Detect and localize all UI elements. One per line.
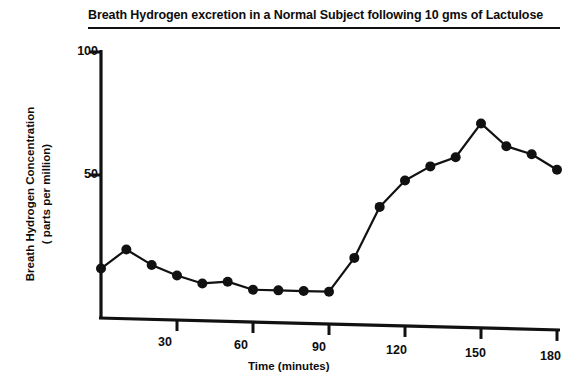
data-point: [400, 176, 410, 186]
data-point: [349, 253, 359, 263]
data-point: [121, 245, 131, 255]
y-axis-ticks: [90, 52, 101, 175]
data-point: [527, 149, 537, 159]
data-point: [501, 141, 511, 151]
data-point: [425, 161, 435, 171]
data-point: [172, 270, 182, 280]
data-point: [476, 118, 486, 128]
data-point: [248, 285, 258, 295]
x-axis-ticks: [177, 320, 557, 341]
data-series-line: [101, 123, 557, 291]
data-point: [451, 152, 461, 162]
plot-area: [0, 0, 582, 384]
data-point: [273, 285, 283, 295]
data-point: [147, 260, 157, 270]
data-point: [552, 165, 562, 175]
data-point: [375, 202, 385, 212]
data-point: [223, 277, 233, 287]
data-point: [96, 264, 106, 274]
data-point: [299, 286, 309, 296]
chart-figure: Breath Hydrogen excretion in a Normal Su…: [0, 0, 582, 384]
data-point: [324, 287, 334, 297]
data-point: [197, 278, 207, 288]
